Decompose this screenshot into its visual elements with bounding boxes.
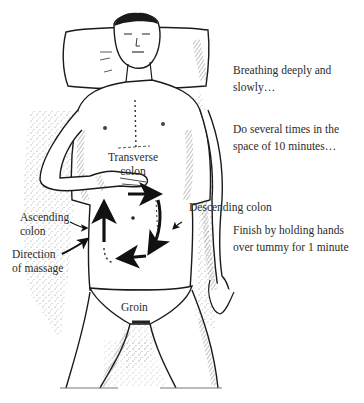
note-finish: Finish by holding hands over tummy for 1… (233, 222, 349, 256)
note-line: slowly… (233, 79, 331, 96)
label-groin: Groin (121, 300, 148, 314)
label-line: Ascending (20, 210, 69, 224)
note-line: space of 10 minutes… (233, 138, 339, 155)
label-line: of massage (12, 261, 63, 275)
note-line: over tummy for 1 minute (233, 239, 349, 256)
label-line: colon (108, 164, 158, 178)
label-line: Transverse (108, 150, 158, 164)
note-line: Breathing deeply and (233, 62, 331, 79)
note-line: Finish by holding hands (233, 222, 349, 239)
label-ascending-colon: Ascending colon (20, 210, 69, 238)
label-line: colon (20, 224, 69, 238)
body-drawing (0, 0, 364, 403)
note-breathing: Breathing deeply and slowly… (233, 62, 331, 96)
label-direction-of-massage: Direction of massage (12, 247, 63, 275)
note-line: Do several times in the (233, 121, 339, 138)
label-line: Direction (12, 247, 63, 261)
label-descending-colon: Descending colon (189, 200, 272, 214)
label-transverse-colon: Transverse colon (108, 150, 158, 178)
massage-illustration: Transverse colon Ascending colon Descend… (0, 0, 364, 403)
note-repeat: Do several times in the space of 10 minu… (233, 121, 339, 155)
